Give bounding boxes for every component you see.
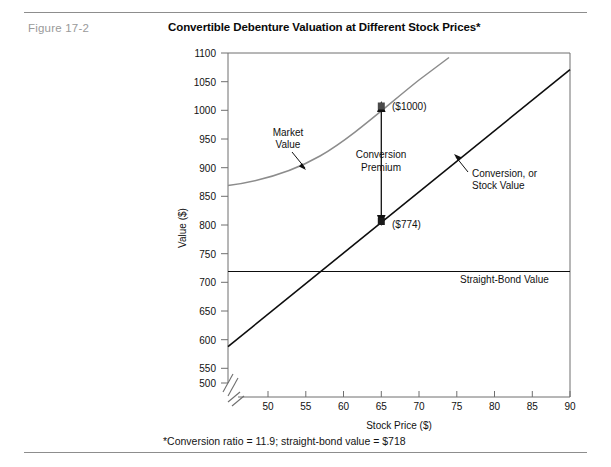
y-tick-700: 700 [199, 277, 216, 288]
y-tick-750: 750 [199, 249, 216, 260]
conversion-stock-label-line2: Stock Value [472, 180, 525, 191]
axis-break-mark [223, 374, 244, 406]
x-tick-50: 50 [262, 401, 274, 412]
straight-bond-value-label: Straight-Bond Value [460, 274, 549, 285]
x-tick-55: 55 [300, 401, 312, 412]
y-tick-1100: 1100 [194, 48, 216, 59]
footer-rule [24, 452, 587, 453]
x-tick-60: 60 [338, 401, 350, 412]
conversion-premium-line2: Premium [361, 162, 401, 173]
y-axis-title: Value ($) [177, 208, 188, 248]
market-value-annotation: Market Value [273, 127, 306, 170]
chart-canvas: 1100 1050 1000 950 900 850 800 750 700 6… [0, 0, 611, 467]
y-axis-ticks [221, 53, 228, 383]
x-axis-title: Stock Price ($) [366, 420, 432, 431]
y-tick-600: 600 [199, 335, 216, 346]
x-tick-75: 75 [451, 401, 463, 412]
conversion-stock-value-annotation: Conversion, or Stock Value [454, 154, 538, 191]
x-tick-70: 70 [413, 401, 425, 412]
y-axis-tick-labels: 1100 1050 1000 950 900 850 800 750 700 6… [194, 48, 217, 389]
x-axis-tick-labels: 50 55 60 65 70 75 80 85 90 [262, 401, 576, 412]
x-axis-ticks [268, 391, 570, 397]
market-value-curve [228, 58, 449, 186]
y-tick-1050: 1050 [194, 77, 217, 88]
conversion-premium-line1: Conversion [356, 149, 407, 160]
callout-774: ($774) [392, 219, 421, 230]
callout-1000: ($1000) [392, 101, 426, 112]
figure-footnote: *Conversion ratio = 11.9; straight-bond … [163, 435, 406, 447]
x-tick-90: 90 [564, 401, 576, 412]
y-tick-900: 900 [199, 163, 216, 174]
y-tick-550: 550 [199, 363, 216, 374]
x-tick-80: 80 [489, 401, 501, 412]
y-tick-500: 500 [199, 378, 216, 389]
x-tick-65: 65 [376, 401, 388, 412]
market-value-label-line2: Value [276, 139, 301, 150]
y-tick-800: 800 [199, 220, 216, 231]
conversion-stock-label-line1: Conversion, or [472, 168, 538, 179]
x-tick-85: 85 [527, 401, 539, 412]
y-tick-850: 850 [199, 191, 216, 202]
y-tick-950: 950 [199, 134, 216, 145]
y-tick-650: 650 [199, 306, 216, 317]
y-tick-1000: 1000 [194, 105, 217, 116]
market-value-label-line1: Market [273, 127, 304, 138]
